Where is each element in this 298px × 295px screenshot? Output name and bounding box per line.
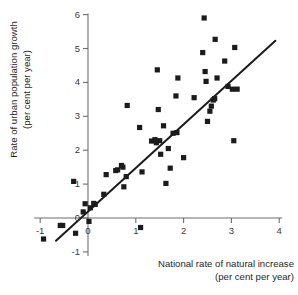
data-point [83,201,88,206]
data-point [156,107,161,112]
x-axis-title: National rate of natural increase (per c… [112,258,294,283]
data-point [230,87,235,92]
data-point [157,138,162,143]
data-point [124,174,129,179]
data-point [101,192,106,197]
data-point [209,104,214,109]
x-axis-title-line2: (per cent per year) [112,271,294,284]
data-point [93,202,98,207]
data-point [60,223,65,228]
data-point [81,209,86,214]
data-point [166,146,171,151]
data-point [168,166,173,171]
data-point [173,93,178,98]
data-point [121,184,126,189]
x-tick-label: 0 [85,226,90,236]
data-markers-group [41,15,240,241]
y-tick-label: 4 [75,78,80,88]
data-point [231,138,236,143]
y-tick-label: 6 [75,10,80,20]
data-point [175,75,180,80]
data-point [222,58,227,63]
x-tick-label: 1 [133,226,138,236]
data-point [203,69,208,74]
x-tick-label: 4 [277,226,282,236]
y-tick-label: 5 [75,44,80,54]
data-point [137,125,142,130]
data-point [235,87,240,92]
data-point [192,95,197,100]
data-point [207,109,212,114]
data-point [232,45,237,50]
data-point [41,236,46,241]
data-point [139,169,144,174]
data-point [174,130,179,135]
y-tick-label: 0 [75,213,80,223]
x-tick-label: 3 [229,226,234,236]
y-axis-title-line2: (per cent per year) [21,2,34,177]
y-tick-label: 2 [75,145,80,155]
scatter-chart-figure: -101234 -10123456 National rate of natur… [0,0,298,295]
data-point [73,231,78,236]
data-point [125,103,130,108]
chart-canvas [0,0,298,295]
y-tick-label: 1 [75,179,80,189]
data-point [104,172,109,177]
x-tick-label: -1 [36,226,44,236]
x-axis-title-line1: National rate of natural increase [112,258,294,271]
data-point [181,155,186,160]
y-tick-label: 3 [75,112,80,122]
data-point [163,181,168,186]
axes-group [34,14,282,256]
x-tick-label: 2 [181,226,186,236]
data-point [161,123,166,128]
data-point [138,225,143,230]
data-point [200,50,205,55]
data-point [86,219,91,224]
y-axis-title-line1: Rate of urban population growth [8,2,21,177]
data-point [158,152,163,157]
data-point [205,119,210,124]
data-point [155,67,160,72]
y-axis-title: Rate of urban population growth (per cen… [8,2,33,177]
data-point [213,37,218,42]
data-point [214,75,219,80]
data-point [203,79,208,84]
data-point [202,15,207,20]
plot-area: -101234 -10123456 [0,0,298,295]
data-point [120,165,125,170]
data-point [212,96,217,101]
y-tick-label: -1 [72,247,80,257]
regression-trend-line [56,41,275,241]
